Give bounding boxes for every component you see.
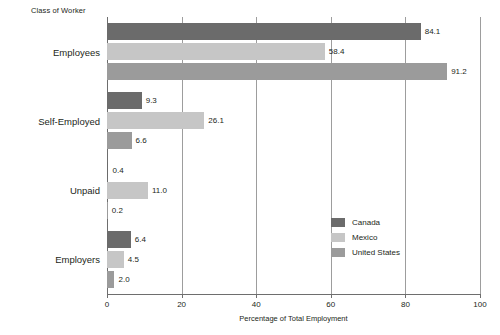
x-tick-label-20: 20 [177, 300, 186, 309]
group-axis-title: Class of Worker [31, 6, 86, 15]
bar [107, 23, 421, 40]
legend-swatch-icon [331, 248, 345, 257]
legend-item: Canada [331, 216, 400, 229]
bar-value-label: 58.4 [329, 43, 345, 60]
bar [107, 231, 131, 248]
category-label-text: Employees [53, 46, 100, 57]
bar-value-label: 6.6 [136, 132, 147, 149]
category-label-text: Self-Employed [38, 115, 100, 126]
x-tick-40 [256, 294, 257, 298]
x-tick-100 [480, 294, 481, 298]
x-axis-line [107, 294, 480, 295]
bar-value-label: 2.0 [118, 271, 129, 288]
x-tick-80 [405, 294, 406, 298]
category-label: Employees [0, 23, 100, 80]
x-tick-label-60: 60 [326, 300, 335, 309]
legend-swatch-icon [331, 233, 345, 242]
bar-value-label: 11.0 [152, 182, 167, 199]
bar-value-label: 84.1 [425, 23, 441, 40]
bar [107, 251, 124, 268]
bar [107, 271, 114, 288]
legend-item: United States [331, 246, 400, 259]
bar [107, 132, 132, 149]
bar-value-label: 0.4 [112, 162, 123, 179]
x-tick-0 [107, 294, 108, 298]
x-tick-20 [182, 294, 183, 298]
bar-value-label: 4.5 [128, 251, 139, 268]
category-label-text: Employers [55, 254, 100, 265]
x-tick-label-80: 80 [401, 300, 410, 309]
bar-value-label: 26.1 [208, 112, 224, 129]
x-tick-60 [331, 294, 332, 298]
legend-swatch-icon [331, 218, 345, 227]
bar-value-label: 9.3 [146, 92, 157, 109]
bar-value-label: 6.4 [135, 231, 146, 248]
category-label: Employers [0, 231, 100, 288]
category-label-text: Unpaid [70, 185, 100, 196]
gridline-80 [405, 17, 406, 294]
bar [107, 202, 108, 219]
x-tick-label-100: 100 [473, 300, 486, 309]
bar-value-label: 91.2 [451, 63, 467, 80]
chart-legend: CanadaMexicoUnited States [331, 216, 400, 261]
x-tick-label-0: 0 [105, 300, 109, 309]
legend-label: United States [352, 248, 400, 257]
x-tick-label-40: 40 [252, 300, 261, 309]
bar [107, 182, 148, 199]
bar-chart: Class of Worker 020406080100 Percentage … [0, 0, 500, 335]
legend-label: Canada [352, 218, 380, 227]
bar [107, 63, 447, 80]
category-label: Self-Employed [0, 92, 100, 149]
gridline-100 [480, 17, 481, 294]
category-label: Unpaid [0, 162, 100, 219]
legend-label: Mexico [352, 233, 377, 242]
bar [107, 162, 108, 179]
bar [107, 112, 204, 129]
bar [107, 43, 325, 60]
bar-value-label: 0.2 [112, 202, 123, 219]
bar [107, 92, 142, 109]
legend-item: Mexico [331, 231, 400, 244]
x-axis-title: Percentage of Total Employment [107, 314, 480, 323]
